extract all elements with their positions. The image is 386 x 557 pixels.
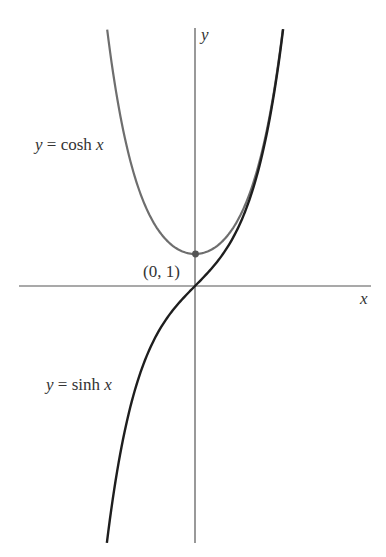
point-marker	[192, 251, 199, 258]
x-axis-label: x	[359, 289, 368, 308]
hyperbolic-functions-plot: y x y = cosh x (0, 1) y = sinh x	[0, 0, 386, 557]
point-label: (0, 1)	[143, 262, 180, 281]
cosh-label: y = cosh x	[33, 135, 104, 154]
y-axis-label: y	[199, 25, 209, 44]
sinh-label: y = sinh x	[44, 375, 112, 394]
